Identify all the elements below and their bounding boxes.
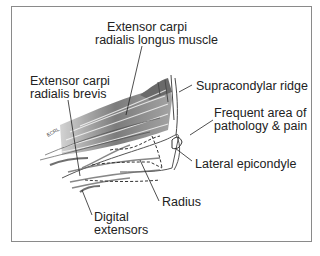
label-ecrb-line2: radialis brevis — [30, 88, 102, 101]
label-lateral-epicondyle: Lateral epicondyle — [195, 158, 296, 171]
label-ecrb: Extensor carpi radialis brevis — [30, 75, 102, 101]
label-pathology-area: Frequent area of pathology & pain — [214, 107, 307, 133]
label-pathology-line2: pathology & pain — [214, 120, 307, 133]
label-supracondylar-ridge: Supracondylar ridge — [196, 80, 308, 93]
label-ecrl-line2: radialis longus muscle — [95, 34, 199, 47]
label-radius: Radius — [162, 196, 201, 209]
label-digital-line2: extensors — [94, 224, 148, 237]
svg-text:ECRL: ECRL — [46, 126, 61, 138]
label-ecrl: Extensor carpi radialis longus muscle — [95, 21, 199, 47]
label-digital-extensors: Digital extensors — [94, 211, 148, 237]
